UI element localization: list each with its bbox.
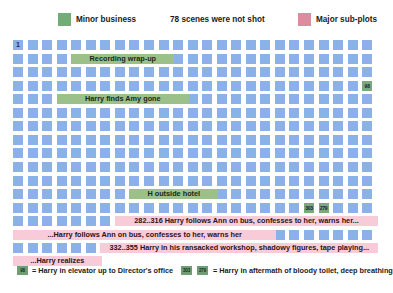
scene-cell [129, 148, 139, 158]
scene-cell [13, 121, 23, 131]
scene-cell [42, 81, 52, 91]
scene-cell [115, 81, 125, 91]
scene-cell [129, 67, 139, 77]
scene-cell [217, 94, 227, 104]
toilet-scene-swatch-2-number: 279 [197, 266, 208, 275]
scene-cell [57, 81, 67, 91]
scene-cell [275, 176, 285, 186]
scene-cell [188, 162, 198, 172]
scene-cell [28, 243, 38, 253]
scene-cell [260, 108, 270, 118]
scene-cell [319, 162, 329, 172]
scene-cell [57, 176, 67, 186]
scene-cell [42, 216, 52, 226]
major-subplot-band: ...Harry follows Ann on bus, confesses t… [13, 230, 276, 240]
scene-cell [217, 40, 227, 50]
scene-cell [348, 148, 358, 158]
scene-cell [362, 189, 372, 199]
scene-cell [333, 40, 343, 50]
scene-cell [260, 40, 270, 50]
scene-cell [28, 176, 38, 186]
scene-cell [13, 162, 23, 172]
scene-cell [71, 216, 81, 226]
scene-cell [57, 135, 67, 145]
scene-cell [231, 176, 241, 186]
scene-cell [13, 54, 23, 64]
scene-cell [115, 162, 125, 172]
scene-cell [304, 40, 314, 50]
scene-cell [42, 162, 52, 172]
scene-cell [28, 67, 38, 77]
scene-cell [159, 203, 169, 213]
scene-cell [28, 94, 38, 104]
scene-cell [144, 203, 154, 213]
scene-cell [289, 203, 299, 213]
scene-cell [246, 203, 256, 213]
scene-cell [57, 148, 67, 158]
scene-cell [159, 108, 169, 118]
scene-cell-start-number: 1 [13, 40, 23, 50]
scene-cell [289, 81, 299, 91]
scene-cell [202, 54, 212, 64]
scene-cell [100, 216, 110, 226]
scene-cell [362, 230, 372, 240]
scene-cell [57, 162, 67, 172]
scene-cell [144, 108, 154, 118]
scene-cell [115, 189, 125, 199]
scene-cell [246, 54, 256, 64]
scene-cell [289, 67, 299, 77]
scene-cell [348, 94, 358, 104]
scene-cell [188, 121, 198, 131]
scene-cell [28, 203, 38, 213]
scene-cell [100, 135, 110, 145]
scene-cell [333, 121, 343, 131]
scene-cell [333, 203, 343, 213]
scene-cell [144, 40, 154, 50]
scene-cell [275, 230, 285, 240]
scene-cell [115, 40, 125, 50]
scene-cell [71, 148, 81, 158]
scene-cell [100, 148, 110, 158]
scene-cell [304, 148, 314, 158]
scene-cell [333, 189, 343, 199]
scene-cell [333, 94, 343, 104]
scene-cell [348, 67, 358, 77]
toilet-scene-description: = Harry in aftermath of bloody toilet, d… [213, 265, 393, 276]
scene-cell [28, 135, 38, 145]
scene-cell [246, 67, 256, 77]
scene-cell [319, 54, 329, 64]
scene-cell [333, 108, 343, 118]
scene-cell [217, 162, 227, 172]
scene-cell [100, 81, 110, 91]
scene-cell [13, 67, 23, 77]
scene-cell [188, 148, 198, 158]
scene-cell [202, 40, 212, 50]
scene-cell [202, 176, 212, 186]
scene-cell [188, 81, 198, 91]
scene-cell [115, 108, 125, 118]
scene-cell [319, 67, 329, 77]
scene-cell [289, 148, 299, 158]
scene-cell [28, 108, 38, 118]
scene-cell [217, 121, 227, 131]
scene-cell [188, 203, 198, 213]
scene-cell [246, 121, 256, 131]
scene-cell [319, 81, 329, 91]
scene-cell [173, 203, 183, 213]
toilet-scene-swatch-1-number: 303 [181, 266, 192, 275]
scene-cell [13, 176, 23, 186]
scene-cell [362, 67, 372, 77]
scene-cell [246, 148, 256, 158]
scene-cell [115, 121, 125, 131]
scene-cell [260, 135, 270, 145]
scene-cell [231, 94, 241, 104]
scene-cell [42, 108, 52, 118]
scene-cell [144, 67, 154, 77]
scene-cell [275, 81, 285, 91]
scene-cell [173, 108, 183, 118]
scene-cell [188, 176, 198, 186]
scene-cell [144, 81, 154, 91]
scene-cell [319, 148, 329, 158]
scene-cell [115, 148, 125, 158]
scene-cell [28, 40, 38, 50]
